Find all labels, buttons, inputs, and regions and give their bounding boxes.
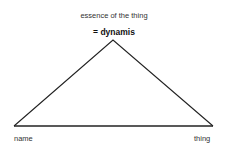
triangle [0,0,228,155]
right-label: thing [194,134,210,143]
left-label: name [14,134,33,143]
